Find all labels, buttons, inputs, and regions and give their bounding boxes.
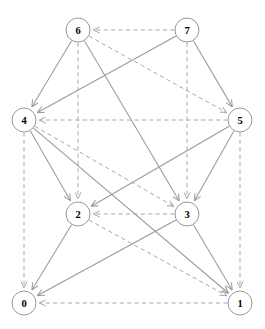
graph-edge-2-to-1: [89, 220, 226, 296]
graph-edge-4-to-2: [30, 131, 70, 201]
graph-edge-6-to-3: [84, 41, 179, 201]
graph-node-1[interactable]: 1: [228, 291, 252, 315]
graph-edge-4-to-1: [34, 128, 229, 293]
edge-layer: [24, 30, 240, 303]
graph-node-2[interactable]: 2: [66, 202, 90, 226]
graph-node-4[interactable]: 4: [12, 108, 36, 132]
graph-edge-6-to-5: [89, 36, 227, 112]
node-label-4: 4: [21, 115, 27, 126]
node-layer: 01234567: [12, 18, 252, 315]
graph-edge-7-to-4: [38, 36, 176, 112]
graph-node-6[interactable]: 6: [66, 18, 90, 42]
graph-edge-3-to-0: [38, 220, 176, 296]
graph-node-5[interactable]: 5: [228, 108, 252, 132]
node-label-3: 3: [184, 209, 189, 220]
node-label-2: 2: [75, 209, 80, 220]
node-label-7: 7: [184, 25, 189, 36]
graph-edge-4-to-3: [35, 126, 174, 206]
graph-node-0[interactable]: 0: [12, 291, 36, 315]
node-label-5: 5: [237, 115, 242, 126]
node-label-6: 6: [75, 25, 80, 36]
graph-node-3[interactable]: 3: [175, 202, 199, 226]
graph-canvas: 01234567: [0, 0, 265, 329]
graph-edge-5-to-3: [195, 131, 234, 201]
node-label-0: 0: [21, 298, 26, 309]
graph-node-7[interactable]: 7: [175, 18, 199, 42]
graph-diagram: 01234567: [0, 0, 265, 329]
node-label-1: 1: [237, 298, 242, 309]
